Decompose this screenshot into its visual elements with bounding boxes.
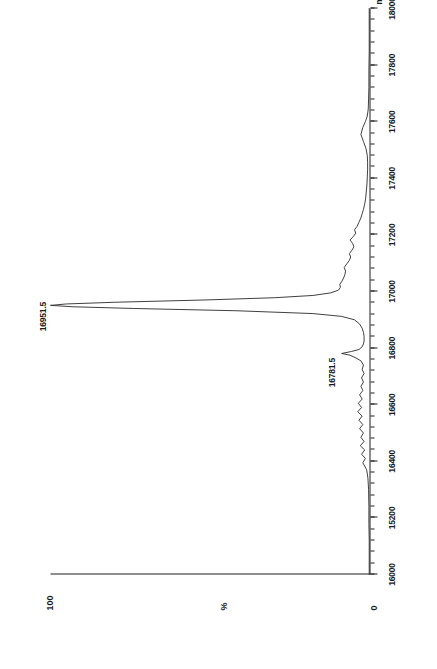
mass-spectrum-plot: 1600015200164001660016800170001720017400… (33, 0, 405, 615)
peak-label-main: 16951.5 (38, 302, 48, 331)
plot-area: 1600015200164001660016800170001720017400… (33, 0, 405, 615)
spectrum-trace (33, 0, 405, 615)
figure-page: 1600015200164001660016800170001720017400… (0, 0, 437, 669)
peak-label-secondary: 16781.5 (327, 358, 337, 387)
